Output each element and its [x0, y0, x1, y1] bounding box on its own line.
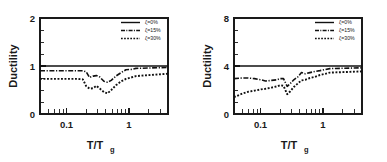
y-ticklabel-2: 2: [30, 13, 35, 24]
x-ticklabel-0p1: 0.1: [60, 119, 74, 130]
legend-label-zeta15-right: ζ=15%: [339, 27, 355, 33]
x-axis-title-left: T/T g: [87, 139, 115, 154]
x-axis-title-left-sub: g: [110, 145, 115, 154]
legend-right: ζ=0% ζ=15% ζ=30%: [315, 19, 355, 41]
x-axis-title-right-main: T/T: [280, 139, 297, 151]
y-ticklabel-1: 1: [30, 61, 36, 72]
legend-label-zeta0-right: ζ=0%: [339, 19, 352, 25]
y-ticklabel-0-right: 0: [223, 109, 228, 120]
figure-container: 2 1 0 Ductility: [0, 0, 387, 162]
y-axis-title-right: Ductility: [201, 43, 213, 87]
chart-svg-left: 2 1 0 Ductility: [0, 0, 194, 162]
chart-panel-left: 2 1 0 Ductility: [0, 0, 194, 162]
series-line-zeta30-left: [40, 74, 168, 94]
legend-label-zeta30-right: ζ=30%: [339, 35, 355, 41]
x-ticks-right: [242, 108, 362, 114]
chart-panel-right: 8 4 0 Ductility: [194, 0, 387, 162]
y-ticklabel-4: 4: [223, 61, 229, 72]
y-ticklabel-0: 0: [30, 109, 35, 120]
x-ticklabel-1-right: 1: [320, 119, 326, 130]
x-axis-title-right-sub: g: [304, 145, 309, 154]
x-axis-title-right: T/T g: [280, 139, 308, 154]
x-ticks-left: [48, 108, 168, 114]
y-axis-title-left: Ductility: [7, 43, 19, 87]
legend-left: ζ=0% ζ=15% ζ=30%: [121, 19, 161, 41]
x-ticklabel-0p1-right: 0.1: [253, 119, 267, 130]
series-line-zeta15-right: [234, 68, 362, 87]
x-axis-title-left-main: T/T: [87, 139, 104, 151]
legend-label-zeta0-left: ζ=0%: [145, 19, 158, 25]
chart-svg-right: 8 4 0 Ductility: [194, 0, 387, 162]
legend-label-zeta15-left: ζ=15%: [145, 27, 161, 33]
y-ticklabel-8: 8: [223, 13, 228, 24]
x-ticklabel-1: 1: [126, 119, 132, 130]
legend-label-zeta30-left: ζ=30%: [145, 35, 161, 41]
series-line-zeta30-right: [234, 71, 362, 97]
